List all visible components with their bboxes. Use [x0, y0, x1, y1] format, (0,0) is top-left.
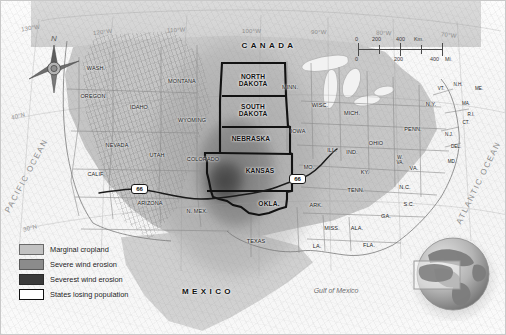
legend-row: States losing population	[19, 287, 128, 301]
state-label-nebraska: NEBRASKA	[232, 136, 271, 143]
graticule-label: 100°W	[242, 28, 261, 34]
state-label-ala: ALA.	[351, 226, 363, 232]
legend-label: Severest wind erosion	[50, 275, 123, 284]
state-label-mich: MICH.	[344, 111, 360, 117]
scale-km-tick-400: 400	[396, 36, 405, 42]
scale-bar: 0 200 400 Km. 0 200 400 Mi.	[346, 37, 456, 63]
state-label-texas: TEXAS	[247, 239, 266, 245]
state-label-md: MD.	[448, 160, 456, 165]
scale-mi-unit: Mi.	[445, 56, 452, 62]
state-label-fla: FLA.	[363, 243, 375, 249]
legend-label: Severe wind erosion	[50, 260, 117, 269]
state-label-ma: MA.	[462, 102, 470, 107]
legend-label: Marginal cropland	[50, 245, 109, 254]
state-label-n-y: N.Y.	[426, 102, 436, 108]
legend-swatch	[19, 274, 44, 285]
scale-mi-tick-400: 400	[430, 56, 439, 62]
state-label-va: VA.	[410, 166, 419, 172]
state-label-w-va: W.VA.	[396, 156, 403, 165]
state-label-wisc: WISC.	[312, 103, 328, 109]
state-label-ind: IND.	[346, 150, 357, 156]
graticule-label: 90°W	[311, 29, 327, 35]
state-label-ark: ARK.	[309, 203, 322, 209]
state-label-mo: MO.	[304, 165, 315, 171]
severest-wind-erosion-zone	[207, 161, 243, 201]
compass-north-label: N	[51, 34, 57, 43]
state-label-n-j: N.J.	[445, 133, 453, 138]
legend-row: Severest wind erosion	[19, 272, 128, 286]
legend-swatch	[19, 289, 44, 300]
state-label-montana: MONTANA	[168, 79, 196, 85]
state-label-arizona: ARIZONA	[137, 201, 162, 207]
state-label-idaho: IDAHO	[130, 105, 148, 111]
water-label-gulf-of-mexico: Gulf of Mexico	[314, 287, 359, 294]
legend-swatch	[19, 244, 44, 255]
state-label-me: ME.	[475, 87, 483, 92]
state-label-r-i: R.I.	[467, 113, 474, 118]
state-label-miss: MISS.	[324, 226, 339, 232]
scale-mi-tick-0: 0	[355, 56, 358, 62]
scale-km-tick-200: 200	[372, 36, 381, 42]
state-label-tenn: TENN.	[348, 188, 365, 194]
scale-km-tick-0: 0	[355, 36, 358, 42]
state-label-calif: CALIF.	[87, 172, 104, 178]
legend-row: Marginal cropland	[19, 242, 128, 256]
state-label-utah: UTAH	[150, 153, 165, 159]
state-label-line2: VA.	[396, 160, 403, 165]
state-label-ohio: OHIO	[369, 141, 383, 147]
route-66-shield: 66	[289, 174, 306, 184]
scale-tick	[442, 43, 443, 56]
state-label-kansas: KANSAS	[246, 168, 275, 175]
compass-star-icon	[23, 35, 85, 99]
state-label-nevada: NEVADA	[106, 143, 129, 149]
scale-mi-tick-200: 200	[394, 56, 403, 62]
globe-icon	[408, 229, 500, 321]
state-label-oklahoma: OKLA.	[258, 201, 279, 208]
state-label-iowa: IOWA	[291, 129, 306, 135]
state-label-ky: KY.	[361, 170, 369, 176]
compass-rose: N	[23, 35, 85, 99]
legend-swatch	[19, 259, 44, 270]
dust-bowl-map: 130°W 120°W 110°W 100°W 90°W 80°W 70°W 4…	[0, 0, 506, 335]
state-label-s-c: S.C.	[403, 202, 414, 208]
country-label-canada: CANADA	[241, 42, 296, 50]
globe-locator-inset	[408, 229, 500, 321]
scale-tick	[358, 43, 359, 56]
map-legend: Marginal croplandSevere wind erosionSeve…	[19, 242, 128, 301]
state-label-la: LA.	[313, 244, 322, 250]
state-label-south-dakota: SOUTH DAKOTA	[239, 104, 268, 117]
country-label-mexico: MEXICO	[182, 288, 234, 296]
scale-tick	[400, 43, 401, 56]
state-label-wyoming: WYOMING	[178, 118, 206, 124]
legend-row: Severe wind erosion	[19, 257, 128, 271]
graticule-label: 110°W	[167, 27, 186, 34]
route-66-shield: 66	[131, 184, 148, 194]
state-label-north-dakota: NORTH DAKOTA	[239, 74, 268, 87]
state-label-line2: DAKOTA	[239, 80, 268, 87]
state-label-colorado: COLORADO	[187, 157, 219, 163]
state-label-penn: PENN.	[404, 127, 421, 133]
state-label-del: DEL.	[451, 145, 461, 150]
state-label-ct: CT.	[463, 121, 470, 126]
state-label-ill: ILL.	[327, 148, 337, 154]
scale-tick	[421, 45, 422, 54]
state-label-vt: VT.	[438, 87, 445, 92]
state-label-n-mex: N. MEX.	[186, 209, 207, 215]
state-label-minn: MINN.	[282, 85, 298, 91]
state-label-n-c: N.C.	[399, 185, 410, 191]
scale-tick	[379, 45, 380, 54]
state-label-ga: GA.	[381, 214, 391, 220]
legend-label: States losing population	[50, 290, 128, 299]
state-label-n-h: N.H.	[453, 83, 462, 88]
state-label-wash: WASH.	[87, 66, 105, 72]
state-label-line2: DAKOTA	[239, 110, 268, 117]
scale-km-unit: Km.	[414, 36, 424, 42]
